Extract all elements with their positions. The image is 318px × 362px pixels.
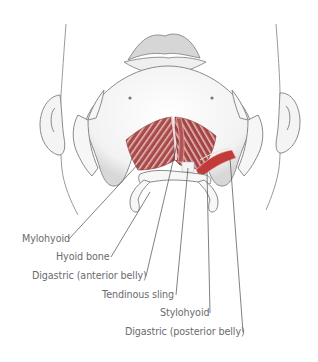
head-drawing [0,0,318,362]
label-hyoid-bone: Hyoid bone [56,251,110,263]
label-stylohyoid: Stylohyoid [160,307,209,319]
left-ear-icon [40,95,65,155]
label-digastric-anterior-belly: Digastric (anterior belly) [32,270,147,282]
leader-digastric-posterior [230,158,243,332]
leader-tendinous-sling [176,168,188,295]
label-tendinous-sling: Tendinous sling [102,289,174,301]
label-digastric-posterior-belly: Digastric (posterior belly) [125,326,245,338]
hyoid-bone [130,170,218,212]
label-mylohyoid: Mylohyoid [22,233,70,245]
anatomy-illustration: Mylohyoid Hyoid bone Digastric (anterior… [0,0,318,362]
mental-foramen-right [210,96,213,99]
mental-foramen-left [128,96,131,99]
right-ear-icon [276,93,300,153]
